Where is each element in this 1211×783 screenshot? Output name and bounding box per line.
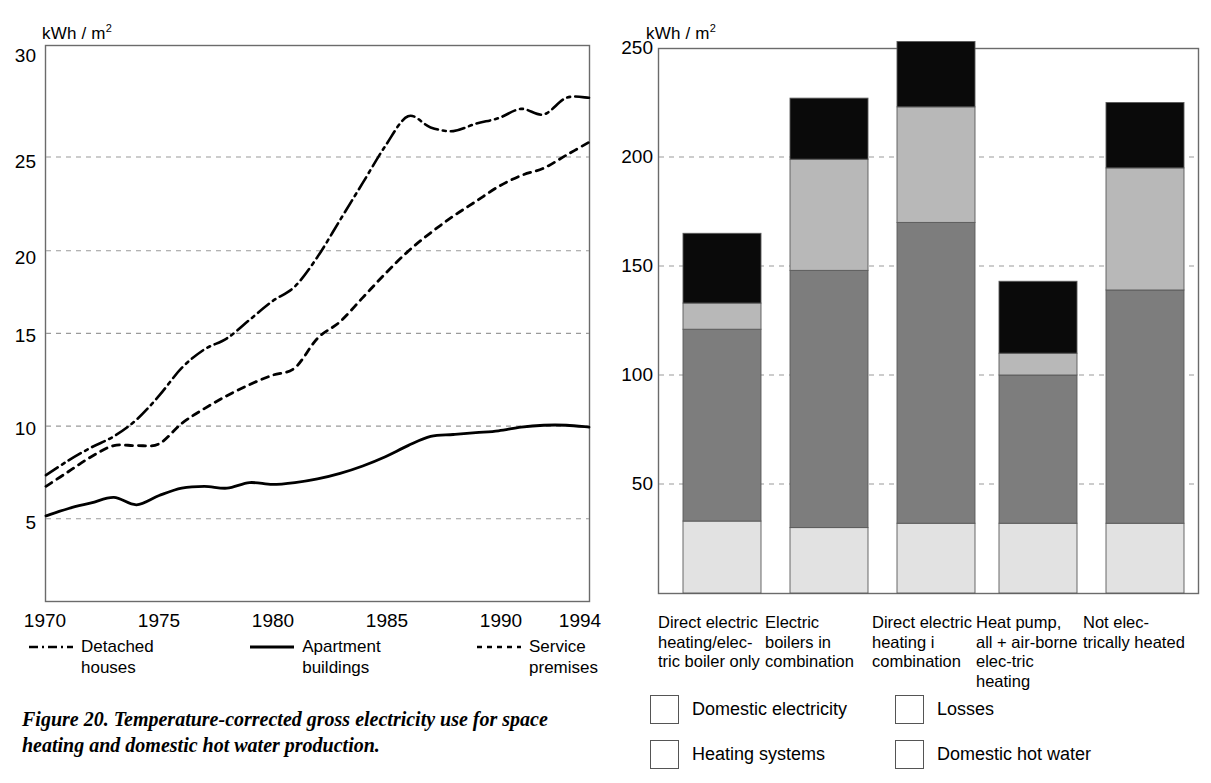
- legend-item-domestic-electricity: Domestic electricity: [650, 695, 895, 724]
- bar-chart-category-labels: Direct electric heating/elec-tric boiler…: [658, 613, 1205, 691]
- legend-item-detached-houses: Detached houses: [28, 636, 154, 678]
- dotted-line-icon: [476, 636, 522, 657]
- domestic-hot-water-swatch-icon: [895, 740, 924, 769]
- bar-segment-1-heating-systems: [790, 270, 868, 527]
- category-label-4: Not elec-trically heated: [1083, 613, 1193, 691]
- bar-segment-2-losses: [897, 107, 975, 223]
- bar-segment-1-domestic-electricity: [790, 98, 868, 159]
- bar-segment-4-heating-systems: [1106, 290, 1184, 523]
- category-label-3: Heat pump, all + air-borne elec-tric hea…: [976, 613, 1083, 691]
- legend-label-detached-houses: Detached houses: [81, 636, 154, 678]
- legend-label-apartment-buildings: Apartment buildings: [302, 636, 380, 678]
- bar-chart-legend: Domestic electricity Losses Heating syst…: [650, 695, 1170, 769]
- left-plot-frame: [46, 46, 590, 602]
- legend-item-heating-systems: Heating systems: [650, 740, 895, 769]
- legend-label-service-premises: Service premises: [529, 636, 598, 678]
- legend-label-heating-systems: Heating systems: [692, 744, 825, 765]
- bar-segment-2-domestic-electricity: [897, 41, 975, 106]
- category-label-2: Direct electric heating i combination: [872, 613, 976, 691]
- dash-dot-line-icon: [28, 636, 74, 657]
- category-label-1: Electric boilers in combination: [765, 613, 872, 691]
- line-series-apartment-buildings: [46, 425, 589, 516]
- bar-segment-0-losses: [683, 303, 761, 329]
- legend-label-losses: Losses: [937, 699, 994, 720]
- solid-line-icon: [249, 636, 295, 657]
- bar-segment-0-domestic-hot-water: [683, 521, 761, 593]
- legend-label-domestic-hot-water: Domestic hot water: [937, 744, 1091, 765]
- domestic-electricity-swatch-icon: [650, 695, 679, 724]
- figure-caption: Figure 20. Temperature-corrected gross e…: [22, 706, 562, 758]
- bar-segment-3-domestic-hot-water: [999, 523, 1077, 593]
- bar-segment-1-domestic-hot-water: [790, 528, 868, 593]
- line-series-detached-houses: [46, 97, 589, 476]
- bar-chart-panel: kWh / m2 250 200 150 100 50 Direct elect…: [612, 0, 1211, 783]
- bar-segment-4-losses: [1106, 168, 1184, 290]
- legend-item-apartment-buildings: Apartment buildings: [249, 636, 380, 678]
- legend-label-domestic-electricity: Domestic electricity: [692, 699, 847, 720]
- losses-swatch-icon: [895, 695, 924, 724]
- bar-segment-3-losses: [999, 353, 1077, 375]
- line-chart-panel: kWh / m2 30 25 20 15 10 5 1970 1975 1980…: [0, 0, 612, 783]
- bar-segment-4-domestic-electricity: [1106, 103, 1184, 168]
- heating-systems-swatch-icon: [650, 740, 679, 769]
- bar-segment-0-domestic-electricity: [683, 233, 761, 303]
- bar-segment-2-domestic-hot-water: [897, 523, 975, 593]
- bar-segment-3-heating-systems: [999, 375, 1077, 523]
- line-chart-legend: Detached houses Apartment buildings Serv…: [28, 636, 598, 678]
- legend-item-losses: Losses: [895, 695, 1140, 724]
- bar-segment-2-heating-systems: [897, 222, 975, 523]
- bar-segment-3-domestic-electricity: [999, 281, 1077, 353]
- bar-segment-4-domestic-hot-water: [1106, 523, 1184, 593]
- bar-segment-1-losses: [790, 159, 868, 270]
- legend-item-service-premises: Service premises: [476, 636, 598, 678]
- legend-item-domestic-hot-water: Domestic hot water: [895, 740, 1140, 769]
- bar-segment-0-heating-systems: [683, 329, 761, 521]
- category-label-0: Direct electric heating/elec-tric boiler…: [658, 613, 765, 691]
- line-series-service-premises: [46, 142, 589, 486]
